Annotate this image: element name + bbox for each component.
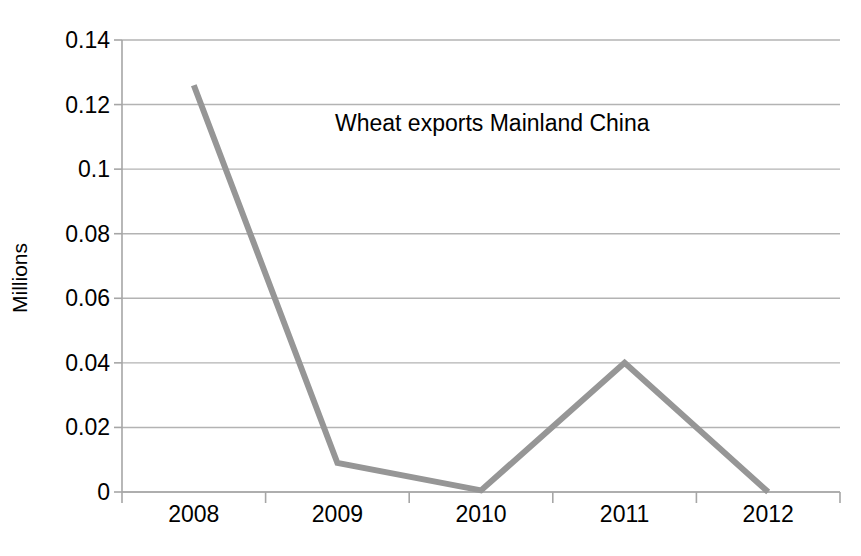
gridlines xyxy=(122,40,840,492)
x-tick-label: 2008 xyxy=(168,503,219,526)
x-tick-label: 2011 xyxy=(600,503,649,526)
x-tick-label: 2012 xyxy=(743,503,794,526)
axis-lines xyxy=(122,40,840,492)
x-tick-label: 2010 xyxy=(455,503,506,526)
x-axis-tick-labels: 20082009201020112012 xyxy=(122,503,840,543)
line-chart: Millions 00.020.040.060.080.10.120.14 20… xyxy=(0,0,861,556)
y-axis-tick-marks xyxy=(114,40,122,492)
x-tick-label: 2009 xyxy=(312,503,363,526)
data-series-line xyxy=(194,85,768,492)
plot-area xyxy=(0,0,861,556)
chart-title: Wheat exports Mainland China xyxy=(335,110,650,137)
